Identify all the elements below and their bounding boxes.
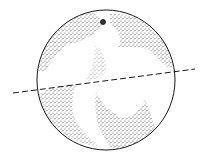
figure-canvas — [0, 0, 203, 163]
sphere-illustration — [0, 0, 203, 163]
stem-icon — [101, 20, 106, 25]
